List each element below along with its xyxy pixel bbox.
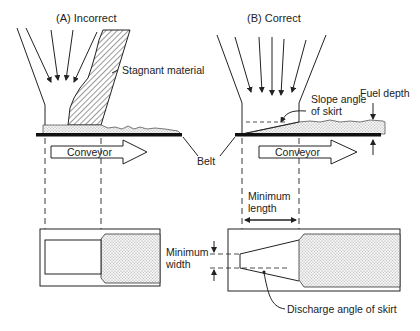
hopper-a-left-wall — [17, 28, 45, 125]
panel-b-title: (B) Correct — [247, 12, 301, 24]
fuel-layer-a — [43, 125, 181, 134]
panel-b-correct: (B) Correct Slope angle of skirt Fuel de… — [210, 12, 410, 315]
flow-arrows-b — [235, 37, 306, 95]
plan-view-a — [40, 229, 160, 286]
plan-view-b — [228, 229, 400, 291]
min-width-label-2: width — [165, 258, 191, 270]
slope-leader — [281, 111, 306, 122]
belt-label-group: Belt — [183, 137, 235, 167]
belt-a — [36, 133, 182, 137]
conveyor-label-a: Conveyor — [67, 146, 112, 158]
hopper-b-left-wall — [217, 35, 242, 135]
flow-arrows-a — [26, 28, 97, 82]
fuel-depth-label: Fuel depth — [360, 87, 410, 99]
hopper-conveyor-diagram: (A) Incorrect Conveyor Stagnant material — [0, 0, 420, 331]
slope-angle-label-1: Slope angle — [311, 93, 367, 105]
min-length-label-2: length — [248, 202, 277, 214]
panel-a-incorrect: (A) Incorrect Conveyor Stagnant material — [17, 12, 209, 286]
stagnant-material-label: Stagnant material — [122, 64, 204, 76]
stagnant-material-region — [68, 30, 130, 125]
min-length-label-1: Minimum — [248, 190, 291, 202]
discharge-angle-label: Discharge angle of skirt — [287, 303, 397, 315]
slope-angle-label-2: of skirt — [311, 105, 342, 117]
min-width-label-1: Minimum — [166, 246, 209, 258]
belt-label: Belt — [197, 155, 215, 167]
belt-b — [235, 133, 381, 137]
conveyor-label-b: Conveyor — [275, 146, 320, 158]
panel-a-title: (A) Incorrect — [56, 12, 117, 24]
